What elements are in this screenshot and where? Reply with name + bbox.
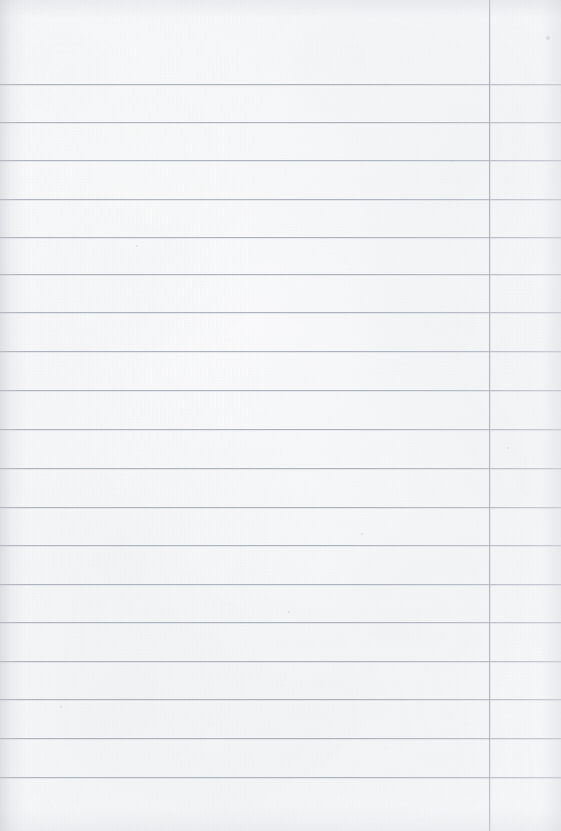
scanned-page [0, 0, 561, 831]
page-writing-area[interactable] [0, 0, 561, 831]
